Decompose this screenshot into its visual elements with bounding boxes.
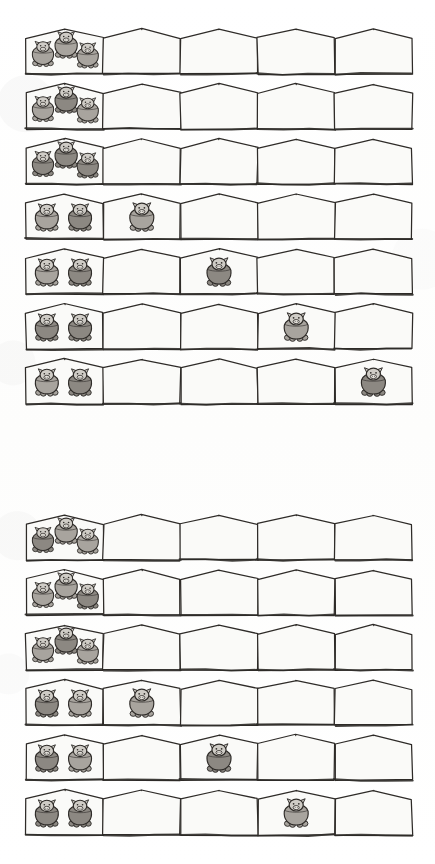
pen-4[interactable] [258,625,335,671]
pen-2[interactable] [103,304,181,350]
pen-apex-mark [373,84,375,86]
pen-apex-mark [218,304,220,306]
pen-floor-line [335,239,412,240]
pen-apex-mark [373,359,375,361]
barn-row-graphic [26,191,412,245]
pen-apex-mark [141,304,143,306]
pen-apex-mark [373,625,375,627]
pen-floor-line [179,779,256,780]
pen-apex-mark [296,139,298,141]
pen-apex-mark [142,249,144,251]
barn-row [26,191,412,245]
pen-3[interactable] [180,515,258,559]
pen-apex-mark [218,680,220,682]
pen-apex-mark [295,570,297,572]
pen-5[interactable] [334,515,412,559]
pen-apex-mark [373,570,375,572]
pen-floor-line [27,349,104,350]
pen-floor-line [180,559,259,561]
barn-row-graphic [26,81,412,135]
pen-5[interactable] [335,571,412,616]
pen-apex-mark [218,790,220,792]
pen-4[interactable] [258,734,335,780]
pen-2[interactable] [102,28,180,73]
pen-2[interactable] [103,736,180,781]
pen-2[interactable] [103,514,181,560]
barn-row [26,246,412,300]
pen-2[interactable] [103,360,181,404]
barn-row-graphic [26,136,412,190]
pen-apex-mark [141,680,143,682]
barn-row [26,512,412,566]
pen-4[interactable] [257,249,334,294]
pen-3[interactable] [181,359,258,405]
pen-5[interactable] [335,29,412,75]
pen-floor-line [336,725,413,726]
pen-2[interactable] [103,569,180,615]
pen-5[interactable] [335,791,412,836]
pen-4[interactable] [257,359,335,404]
pen-4[interactable] [257,139,335,184]
pen-4[interactable] [257,83,334,129]
pen-apex-mark [373,790,375,792]
pen-3[interactable] [180,29,258,73]
pen-apex-mark [219,570,221,572]
pen-floor-line [334,669,413,671]
pen-5[interactable] [334,249,412,294]
pen-floor-line [103,725,181,726]
pen-floor-line [180,834,257,835]
pen-apex-mark [142,570,144,572]
pen-5[interactable] [335,735,412,780]
pen-floor-line [103,128,180,129]
pen-apex-mark [372,515,374,517]
pen-4[interactable] [258,515,335,560]
pen-apex-mark [295,680,297,682]
pen-4[interactable] [258,570,335,616]
pen-apex-mark [142,84,144,86]
barn-row-graphic [26,356,412,410]
barn-row-graphic [26,677,412,731]
pen-2[interactable] [103,790,181,835]
pen-floor-line [104,74,181,75]
pen-5[interactable] [334,139,412,184]
pen-apex-mark [218,29,220,31]
pen-3[interactable] [180,83,258,129]
pen-apex-mark [218,359,220,361]
pen-5[interactable] [334,304,412,349]
pen-apex-mark [373,139,375,141]
pen-5[interactable] [335,624,412,670]
barn-row-graphic [26,301,412,355]
pen-floor-line [257,559,335,560]
pen-apex-mark [64,304,66,306]
pen-apex-mark [373,194,375,196]
pen-3[interactable] [180,625,258,670]
pen-floor-line [104,293,180,294]
pen-3[interactable] [181,680,259,725]
pen-5[interactable] [334,85,413,130]
pen-2[interactable] [103,249,180,293]
pen-apex-mark [141,194,143,196]
barn-row [26,356,412,410]
pen-apex-mark [219,249,221,251]
pen-2[interactable] [103,625,181,670]
barn-row-graphic [26,787,412,864]
pen-3[interactable] [181,194,258,240]
pen-3[interactable] [180,138,258,184]
pen-floor-line [335,129,412,130]
pen-2[interactable] [103,139,180,184]
pen-floor-line [257,73,335,75]
pen-3[interactable] [181,791,258,836]
pen-4[interactable] [258,681,335,726]
pen-apex-mark [296,84,298,86]
pen-2[interactable] [103,84,181,128]
pen-5[interactable] [335,194,412,239]
pen-5[interactable] [334,680,412,724]
pen-apex-mark [218,139,220,141]
pen-3[interactable] [181,304,259,349]
pen-4[interactable] [257,29,335,75]
pen-floor-line [103,403,181,404]
barn-row [26,301,412,355]
pen-floor-line [257,669,335,670]
pen-3[interactable] [181,570,258,616]
pen-4[interactable] [258,194,336,239]
